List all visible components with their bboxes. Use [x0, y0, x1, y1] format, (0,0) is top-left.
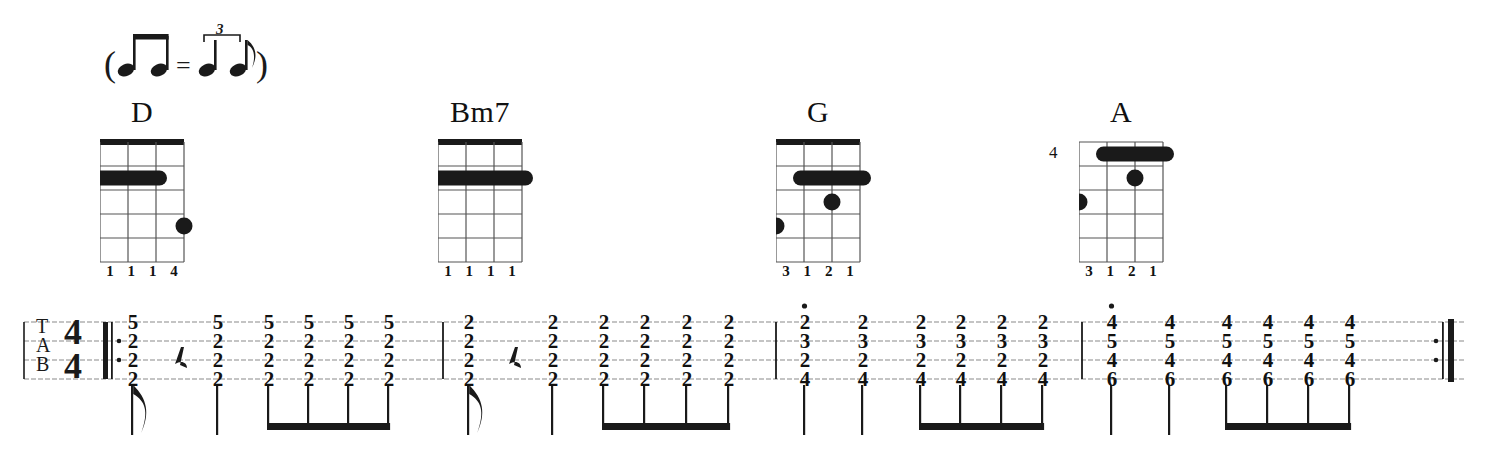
chord-fretboard-grid: [1079, 139, 1175, 267]
fingering-row: 1114: [100, 263, 184, 280]
eighth-note-flag: [248, 40, 256, 68]
staccato-dot: [802, 303, 807, 308]
tab-fret-number: 6: [1162, 369, 1178, 390]
eighth-note-stem: [467, 385, 469, 435]
chord-name-label: Bm7: [424, 95, 536, 129]
repeat-dot-end: [1434, 358, 1439, 363]
finger-dot: [1079, 194, 1088, 211]
time-signature-denominator: 4: [64, 346, 82, 386]
eighth-note-stem: [131, 385, 133, 435]
tab-clef-letter: B: [36, 353, 49, 375]
tab-fret-number: 4: [994, 369, 1010, 390]
eighth-rest-glyph: [509, 347, 521, 368]
eighth-note-beam: [1226, 423, 1352, 430]
fingering-number: 1: [438, 263, 458, 280]
fingering-number: 1: [502, 263, 522, 280]
eighth-rest: [509, 347, 521, 368]
finger-dot: [824, 194, 841, 211]
tab-fret-number: 2: [545, 369, 561, 390]
tab-fret-number: 6: [1219, 369, 1235, 390]
chord-fretboard-grid: [438, 139, 534, 267]
fingering-number: 3: [776, 263, 796, 280]
chord-diagram-bm7: Bm71111: [424, 95, 536, 285]
tab-fret-number: 4: [1035, 369, 1051, 390]
tab-fret-number: 4: [953, 369, 969, 390]
tab-fret-number: 6: [1301, 369, 1317, 390]
close-paren-glyph: ): [256, 44, 268, 84]
tab-fret-number: 2: [125, 369, 141, 390]
fingering-number: 3: [1079, 263, 1099, 280]
repeat-dot-start: [117, 358, 122, 363]
chord-name-label: A: [1065, 95, 1177, 129]
staccato-dot: [1109, 303, 1114, 308]
fingering-number: 4: [164, 263, 184, 280]
tab-fret-number: 4: [797, 369, 813, 390]
finger-dot: [1127, 170, 1144, 187]
tab-fret-number: 2: [637, 369, 653, 390]
fret-position-marker: 4: [1049, 143, 1058, 163]
quarter-note-stem: [214, 40, 217, 70]
tab-fret-number: 4: [855, 369, 871, 390]
fingering-number: 1: [121, 263, 141, 280]
barre-marker: [438, 171, 533, 186]
tab-fret-number: 2: [679, 369, 695, 390]
chord-name-label: D: [86, 95, 198, 129]
repeat-thick-bar-end: [1448, 319, 1454, 382]
repeat-dot-end: [1434, 339, 1439, 344]
quarter-note-stem: [1110, 385, 1112, 435]
fingering-number: 1: [143, 263, 163, 280]
fingering-number: 1: [840, 263, 860, 280]
tab-fret-number: 6: [1342, 369, 1358, 390]
tab-fret-number: 4: [913, 369, 929, 390]
tab-fret-number: 2: [210, 369, 226, 390]
quarter-note-stem: [551, 385, 553, 435]
swing-feel-notation: ( = 3 ): [104, 18, 284, 90]
finger-dot: [176, 218, 193, 235]
tab-fret-number: 2: [261, 369, 277, 390]
tab-fret-number: 2: [461, 369, 477, 390]
eighth-note-stem-3: [245, 40, 248, 70]
fingering-row: 3121: [1079, 263, 1163, 280]
tab-fret-number: 6: [1104, 369, 1120, 390]
eighth-note-flag: [469, 385, 482, 433]
fingering-number: 1: [1100, 263, 1120, 280]
barre-marker: [100, 171, 167, 186]
chord-fretboard-grid: [776, 139, 872, 267]
chord-diagram-a: A43121: [1065, 95, 1177, 285]
fingering-row: 3121: [776, 263, 860, 280]
tab-fret-number: 2: [721, 369, 737, 390]
repeat-thin-bar-end: [1442, 322, 1444, 379]
repeat-thick-bar-start: [103, 322, 108, 379]
barre-marker: [1096, 147, 1174, 162]
chord-name-label: G: [762, 95, 874, 129]
quarter-note-stem: [216, 385, 218, 435]
tab-fret-number: 2: [341, 369, 357, 390]
tab-fret-number: 2: [381, 369, 397, 390]
swing-feel-marking: ( = 3 ): [104, 18, 284, 90]
eighth-note-stem-2: [166, 36, 169, 70]
finger-dot: [776, 218, 785, 235]
fingering-number: 1: [797, 263, 817, 280]
chord-diagram-g: G3121: [762, 95, 874, 285]
eighth-beam: [133, 34, 169, 40]
eighth-note-beam: [268, 423, 391, 430]
open-paren-glyph: (: [104, 44, 116, 84]
chord-fretboard-grid: [100, 139, 196, 267]
eighth-note-stem-1: [133, 36, 136, 70]
equals-glyph: =: [176, 51, 191, 80]
repeat-thin-bar-start: [111, 322, 113, 379]
barre-marker: [793, 171, 871, 186]
eighth-note-beam: [603, 423, 731, 430]
fingering-number: 1: [481, 263, 501, 280]
quarter-note-stem: [861, 385, 863, 435]
eighth-note-beam: [920, 423, 1045, 430]
tab-fret-number: 2: [596, 369, 612, 390]
repeat-dot-start: [117, 339, 122, 344]
fingering-number: 1: [100, 263, 120, 280]
tab-fret-number: 6: [1260, 369, 1276, 390]
quarter-note-stem: [1168, 385, 1170, 435]
fingering-number: 1: [459, 263, 479, 280]
tab-fret-number: 2: [301, 369, 317, 390]
eighth-rest: [175, 347, 187, 368]
sheet-music-page: ( = 3 ) D1114Bm71111G3121A43121 TAB44: [0, 0, 1485, 451]
